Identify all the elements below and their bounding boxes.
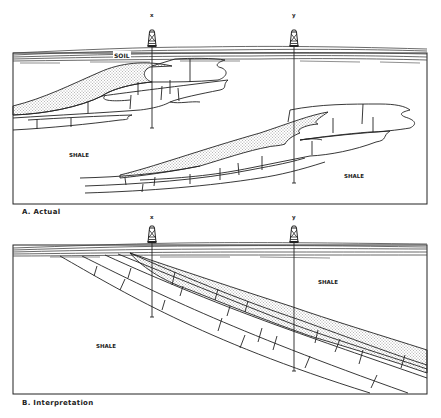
lower-lens [80,104,415,193]
well-y: y [290,214,299,371]
panel-b-interpretation: x y SHALE SHALE [13,214,427,394]
well-x: x [148,12,157,128]
shale-label-left: SHALE [69,152,89,158]
cross-section-diagram: SOIL [0,0,441,418]
soil-layer [13,46,427,63]
dipping-beds [60,253,427,393]
upper-lens [13,58,228,130]
caption-panel-a: A. Actual [22,208,60,216]
well-x-label: x [150,12,154,18]
soil-label: SOIL [114,52,130,59]
panel-a-actual: SOIL [13,12,427,204]
shale-label-right: SHALE [344,173,364,179]
well-y-label: y [292,214,296,221]
shale-label-left: SHALE [96,343,116,349]
well-y-label: y [292,12,296,19]
well-y: y [290,12,299,183]
caption-panel-b: B. Interpretation [22,399,93,407]
shale-label-right: SHALE [318,279,338,285]
well-x-label: x [150,214,154,220]
